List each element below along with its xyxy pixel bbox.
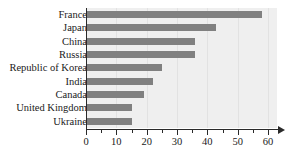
bar-row: Japan <box>0 21 289 34</box>
bar-row: Canada <box>0 88 289 101</box>
category-label: Japan <box>1 21 87 34</box>
bar <box>86 11 262 18</box>
y-axis-line <box>86 8 87 130</box>
category-label: Ukraine <box>1 115 87 128</box>
bar <box>86 64 162 71</box>
x-tick-label: 30 <box>162 136 192 147</box>
x-tick <box>86 130 87 135</box>
x-tick-label: 50 <box>223 136 253 147</box>
x-tick-label: 10 <box>101 136 131 147</box>
bar-rows: FranceJapanChinaRussiaRepublic of KoreaI… <box>0 8 289 128</box>
x-tick <box>147 130 148 135</box>
x-axis-arrow-icon <box>278 126 285 134</box>
x-tick <box>177 130 178 135</box>
x-minor-tick <box>132 130 133 133</box>
bar-row: India <box>0 75 289 88</box>
x-minor-tick <box>162 130 163 133</box>
x-tick <box>116 130 117 135</box>
x-minor-tick <box>192 130 193 133</box>
x-tick <box>238 130 239 135</box>
category-label: France <box>1 8 87 21</box>
bar <box>86 78 153 85</box>
x-minor-tick <box>253 130 254 133</box>
bar <box>86 91 144 98</box>
category-label: India <box>1 75 87 88</box>
bar <box>86 118 132 125</box>
x-tick <box>207 130 208 135</box>
bar-row: Republic of Korea <box>0 61 289 74</box>
bar <box>86 51 195 58</box>
x-minor-tick <box>101 130 102 133</box>
bar <box>86 38 195 45</box>
bar <box>86 104 132 111</box>
x-tick-label: 40 <box>192 136 222 147</box>
x-tick-label: 20 <box>132 136 162 147</box>
x-tick <box>268 130 269 135</box>
category-label: Russia <box>1 48 87 61</box>
x-axis-line <box>86 129 280 130</box>
bar-row: France <box>0 8 289 21</box>
bar-row: United Kingdom <box>0 101 289 114</box>
x-tick-label: 60 <box>253 136 283 147</box>
bar-chart: FranceJapanChinaRussiaRepublic of KoreaI… <box>0 0 289 153</box>
category-label: China <box>1 35 87 48</box>
bar-row: Ukraine <box>0 115 289 128</box>
bar-row: Russia <box>0 48 289 61</box>
category-label: Canada <box>1 88 87 101</box>
category-label: United Kingdom <box>1 101 87 114</box>
x-minor-tick <box>223 130 224 133</box>
x-tick-label: 0 <box>71 136 101 147</box>
bar <box>86 24 216 31</box>
category-label: Republic of Korea <box>1 61 87 74</box>
bar-row: China <box>0 35 289 48</box>
